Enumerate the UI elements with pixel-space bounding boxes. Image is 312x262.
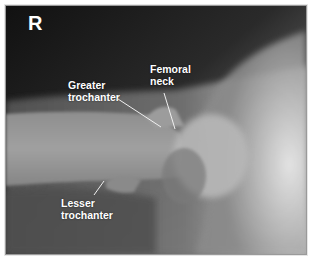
xray-frame: R Greater trochanter Femoral neck Lesser… (5, 5, 307, 255)
label-line-2: neck (150, 75, 191, 87)
label-line-1: Greater (68, 79, 120, 91)
label-greater-trochanter: Greater trochanter (68, 79, 120, 103)
label-line-2: trochanter (61, 209, 113, 221)
label-lesser-trochanter: Lesser trochanter (61, 197, 113, 221)
label-femoral-neck: Femoral neck (150, 63, 191, 87)
label-line-1: Lesser (61, 197, 113, 209)
hip-radiograph (6, 6, 306, 254)
side-marker-label: R (28, 12, 42, 34)
label-line-2: trochanter (68, 91, 120, 103)
label-line-1: Femoral (150, 63, 191, 75)
